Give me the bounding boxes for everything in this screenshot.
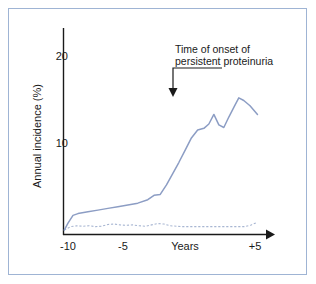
- chart-figure: Annual incidence (%) 20 10 -10 -5 Years …: [0, 0, 316, 284]
- onset-annotation: Time of onset of persistent proteinuria: [175, 43, 273, 67]
- x-tick-label-minus-10: -10: [48, 241, 88, 252]
- y-axis-title: Annual incidence (%): [31, 66, 43, 206]
- annotation-arrowhead: [169, 88, 178, 97]
- x-tick-label-plus-5: +5: [235, 241, 275, 252]
- series-line-baseline: [64, 222, 257, 230]
- x-axis-arrowhead: [266, 230, 275, 240]
- x-axis-title: Years: [160, 241, 210, 252]
- y-tick-label-10: 10: [56, 138, 68, 149]
- x-tick-label-minus-5: -5: [103, 241, 143, 252]
- onset-annotation-line1: Time of onset of: [175, 43, 250, 55]
- y-tick-label-20: 20: [56, 51, 68, 62]
- onset-annotation-line2: persistent proteinuria: [175, 55, 273, 67]
- series-line-main: [64, 98, 257, 230]
- annotation-arrow-elbow: [173, 68, 222, 90]
